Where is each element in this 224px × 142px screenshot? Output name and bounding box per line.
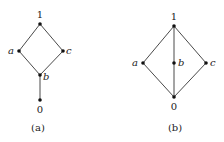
edge-1-a	[19, 24, 40, 51]
edge-c-0	[174, 63, 206, 97]
edge-a-b	[19, 51, 40, 75]
node-1	[172, 24, 176, 28]
lattice-b: 1 a b c 0 (b)	[132, 11, 216, 133]
label-0: 0	[37, 104, 43, 115]
edge-1-c	[40, 24, 63, 51]
label-1: 1	[171, 11, 177, 22]
lattice-diagrams: 1 a c b 0 (a) 1 a b c 0 (b)	[0, 0, 224, 142]
node-1	[38, 22, 42, 26]
node-b	[172, 61, 176, 65]
node-0	[38, 98, 42, 102]
lattice-a: 1 a c b 0 (a)	[8, 9, 72, 133]
node-a	[17, 49, 21, 53]
node-b	[38, 73, 42, 77]
label-c: c	[210, 57, 216, 68]
node-a	[141, 61, 145, 65]
node-c	[204, 61, 208, 65]
node-c	[61, 49, 65, 53]
caption-a: (a)	[31, 122, 45, 133]
label-b: b	[178, 57, 184, 68]
edge-1-a	[143, 26, 174, 63]
label-b: b	[43, 71, 49, 82]
label-a: a	[132, 57, 138, 68]
caption-b: (b)	[168, 122, 182, 133]
label-0: 0	[171, 101, 177, 112]
node-0	[172, 95, 176, 99]
label-1: 1	[37, 9, 43, 20]
edge-a-0	[143, 63, 174, 97]
label-c: c	[66, 45, 72, 56]
label-a: a	[8, 45, 14, 56]
